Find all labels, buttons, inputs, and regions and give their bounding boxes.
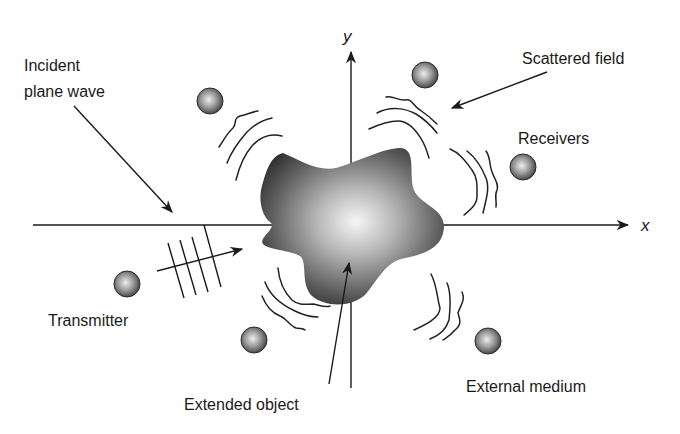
receiver-sphere-5: [475, 328, 501, 354]
scattered-field-label: Scattered field: [522, 50, 624, 67]
plane-wave-direction-arrow: [157, 249, 242, 271]
y-axis-label: y: [342, 27, 353, 46]
scattered-field-pointer-arrow: [452, 72, 547, 108]
receiver-sphere-1: [197, 88, 223, 114]
scattered-waves-lower-right: [414, 274, 463, 340]
transmitter-label: Transmitter: [48, 312, 129, 329]
receivers-label: Receivers: [518, 130, 589, 147]
extended-object-shape: [260, 148, 444, 305]
extended-object-label: Extended object: [184, 396, 299, 413]
incident-wave-pointer-arrow: [74, 106, 172, 212]
incident-wave-label-line2: plane wave: [24, 83, 105, 100]
incident-wave-label-line1: Incident: [24, 57, 81, 74]
receiver-sphere-4: [241, 327, 267, 353]
external-medium-label: External medium: [466, 378, 586, 395]
receiver-sphere-3: [510, 154, 536, 180]
transmitter-sphere: [114, 271, 140, 297]
receiver-sphere-2: [412, 62, 438, 88]
x-axis-label: x: [640, 216, 650, 235]
scattering-diagram: x y: [0, 0, 680, 434]
scattered-waves-right: [450, 149, 498, 215]
